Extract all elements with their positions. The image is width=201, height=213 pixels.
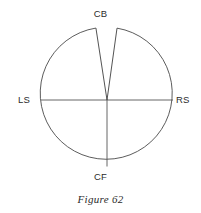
figure-container: CB LS RS CF Figure 62 — [0, 0, 201, 213]
figure-caption: Figure 62 — [0, 193, 201, 205]
notch-right-edge — [107, 28, 117, 100]
label-cf: CF — [0, 172, 201, 182]
label-ls: LS — [18, 95, 30, 105]
notch-left-edge — [96, 28, 107, 100]
label-rs: RS — [176, 95, 190, 105]
label-cb: CB — [0, 9, 201, 19]
